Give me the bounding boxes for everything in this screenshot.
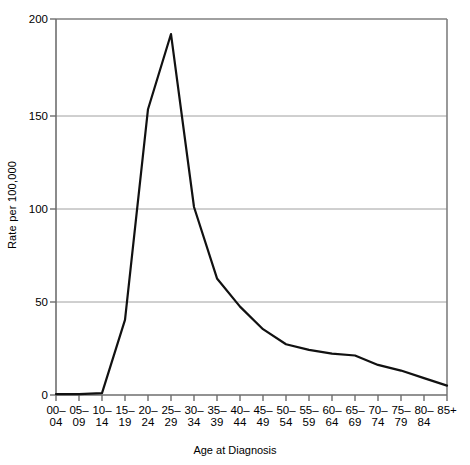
data-series-line	[56, 34, 447, 394]
x-tick-label: 85+	[427, 404, 467, 416]
plot-frame	[56, 19, 447, 395]
x-tick-marks	[56, 395, 447, 401]
chart-container: Rate per 100,000 200 150 100 50 0	[0, 0, 470, 465]
gridlines	[56, 116, 447, 302]
x-axis-title: Age at Diagnosis	[0, 444, 470, 456]
chart-svg	[0, 0, 470, 465]
y-tick-marks	[50, 19, 56, 395]
